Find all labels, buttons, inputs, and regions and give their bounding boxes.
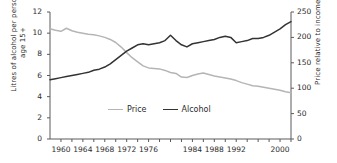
legend-swatch-price [108,109,123,110]
y-axis-left-tick-label: 10 [26,28,42,37]
y-axis-left-tick-label: 2 [26,113,42,122]
y-axis-right-tick-label: 250 [297,7,317,16]
y-axis-left-tick-label: 6 [26,71,42,80]
y-axis-right-tick-label: 150 [297,58,317,67]
legend-label-alcohol: Alcohol [182,105,211,114]
series-line-alcohol [50,22,291,80]
y-axis-left-tick-label: 0 [26,134,42,143]
legend-item-price: Price [108,105,147,114]
plot-area [0,0,337,163]
legend-item-alcohol: Alcohol [163,105,211,114]
legend-swatch-alcohol [163,109,178,110]
y-axis-right-tick-label: 50 [297,109,317,118]
legend-label-price: Price [127,105,147,114]
y-axis-right-tick-label: 0 [297,134,317,143]
y-axis-right-tick-label: 100 [297,83,317,92]
x-axis-tick-label: 1992 [223,145,249,154]
x-axis-tick-label: 1976 [136,145,162,154]
chart-figure: Litres of alcohol per personage 15+ Pric… [0,0,337,163]
x-axis-tick-label: 2000 [267,145,293,154]
y-axis-left-tick-label: 4 [26,92,42,101]
chart-legend: Price Alcohol [108,105,211,114]
y-axis-left-tick-label: 8 [26,49,42,58]
y-axis-left-tick-label: 12 [26,7,42,16]
y-axis-right-tick-label: 200 [297,32,317,41]
